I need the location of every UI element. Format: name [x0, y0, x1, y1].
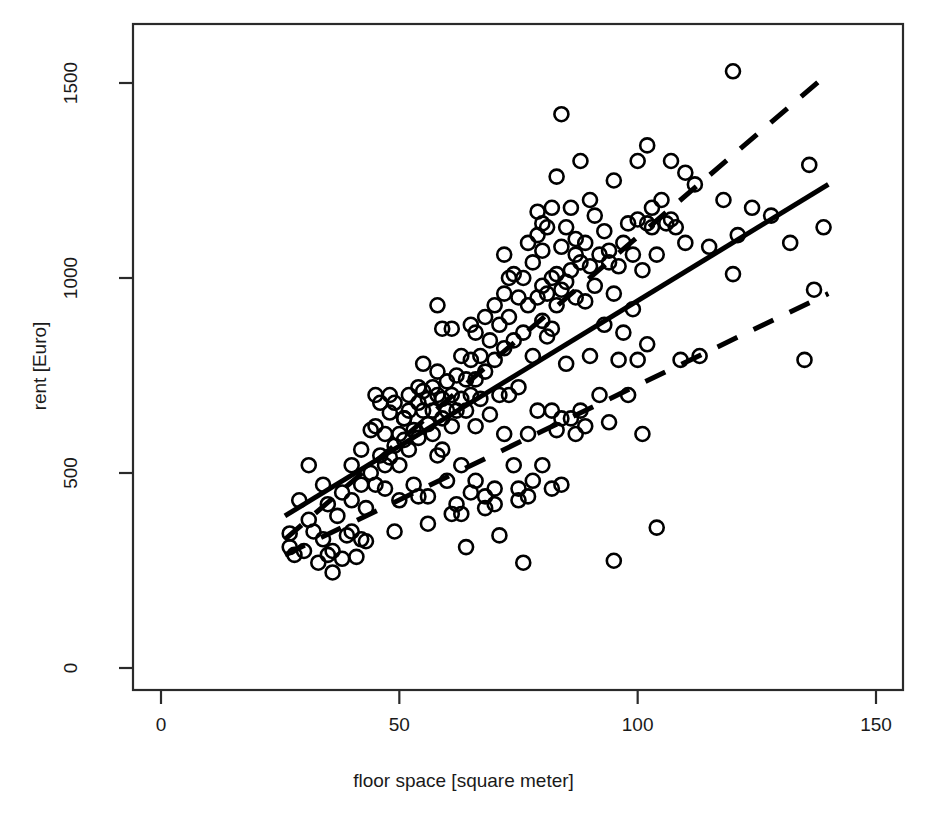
- upper-band: [285, 73, 828, 539]
- data-point: [302, 458, 316, 472]
- data-point: [640, 138, 654, 152]
- data-point: [607, 554, 621, 568]
- data-point: [311, 556, 325, 570]
- y-tick-label: 1500: [60, 43, 82, 123]
- data-point: [349, 550, 363, 564]
- x-axis-ticks: [161, 690, 876, 704]
- data-point: [550, 170, 564, 184]
- data-point: [531, 404, 545, 418]
- data-point: [807, 283, 821, 297]
- data-point: [726, 64, 740, 78]
- y-tick-label: 500: [60, 433, 82, 513]
- data-point: [745, 201, 759, 215]
- data-point: [602, 415, 616, 429]
- data-point: [492, 318, 506, 332]
- data-point: [588, 209, 602, 223]
- data-point: [526, 474, 540, 488]
- data-point: [521, 298, 535, 312]
- data-point: [354, 443, 368, 457]
- data-point: [559, 357, 573, 371]
- data-point: [564, 263, 578, 277]
- data-point: [488, 482, 502, 496]
- data-point: [593, 388, 607, 402]
- data-point: [645, 201, 659, 215]
- data-point: [640, 337, 654, 351]
- x-tick-label: 0: [121, 714, 201, 736]
- data-point: [607, 174, 621, 188]
- data-point: [330, 509, 344, 523]
- data-point: [416, 357, 430, 371]
- data-point: [483, 333, 497, 347]
- data-point: [817, 220, 831, 234]
- data-point: [507, 458, 521, 472]
- data-point: [326, 565, 340, 579]
- data-point: [430, 298, 444, 312]
- data-point: [521, 236, 535, 250]
- data-point: [545, 201, 559, 215]
- data-point: [588, 279, 602, 293]
- data-point: [345, 493, 359, 507]
- data-point: [335, 552, 349, 566]
- data-point: [445, 322, 459, 336]
- regression-line: [285, 184, 828, 516]
- y-tick-label: 1000: [60, 238, 82, 318]
- data-point: [502, 310, 516, 324]
- data-point: [664, 154, 678, 168]
- data-point: [554, 240, 568, 254]
- data-point: [535, 458, 549, 472]
- x-axis-title: floor space [square meter]: [0, 770, 927, 792]
- data-point: [578, 419, 592, 433]
- y-axis-ticks: [119, 83, 133, 668]
- y-axis-title: rent [Euro]: [29, 286, 51, 446]
- data-point: [411, 489, 425, 503]
- data-point: [607, 287, 621, 301]
- data-point: [516, 556, 530, 570]
- data-point: [635, 263, 649, 277]
- data-point: [612, 353, 626, 367]
- data-point: [445, 419, 459, 433]
- data-point: [388, 525, 402, 539]
- data-point: [631, 353, 645, 367]
- data-point: [597, 224, 611, 238]
- data-point: [531, 205, 545, 219]
- data-point: [492, 528, 506, 542]
- data-point: [583, 193, 597, 207]
- data-point: [545, 404, 559, 418]
- data-point: [716, 193, 730, 207]
- data-point: [354, 532, 368, 546]
- data-point: [650, 521, 664, 535]
- y-tick-label: 0: [60, 628, 82, 708]
- plot-frame: [133, 24, 903, 690]
- data-point: [798, 353, 812, 367]
- data-point: [726, 267, 740, 281]
- scatter-plot-figure: floor space [square meter] rent [Euro] 0…: [0, 0, 927, 819]
- data-point: [554, 107, 568, 121]
- data-point: [469, 474, 483, 488]
- data-point: [535, 244, 549, 258]
- data-point: [573, 154, 587, 168]
- data-point: [459, 540, 473, 554]
- data-point: [497, 287, 511, 301]
- data-point: [497, 248, 511, 262]
- x-tick-label: 100: [598, 714, 678, 736]
- data-point: [469, 419, 483, 433]
- data-point: [483, 408, 497, 422]
- data-point: [402, 388, 416, 402]
- data-point: [497, 427, 511, 441]
- data-point: [635, 427, 649, 441]
- x-tick-label: 50: [359, 714, 439, 736]
- plot-canvas: [0, 0, 927, 819]
- data-point: [392, 458, 406, 472]
- data-point: [655, 193, 669, 207]
- x-tick-label: 150: [836, 714, 916, 736]
- data-point: [678, 236, 692, 250]
- data-point: [783, 236, 797, 250]
- data-point: [512, 291, 526, 305]
- data-point: [521, 427, 535, 441]
- data-point: [583, 349, 597, 363]
- data-point: [421, 517, 435, 531]
- data-point: [569, 427, 583, 441]
- data-point: [616, 326, 630, 340]
- data-point: [512, 380, 526, 394]
- data-point: [802, 158, 816, 172]
